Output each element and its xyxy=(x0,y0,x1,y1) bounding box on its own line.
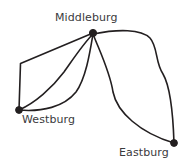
city-node-eastburg xyxy=(171,140,178,147)
road-westburg-middleburg-middle xyxy=(19,34,93,110)
road-westburg-middleburg-upper xyxy=(19,33,93,110)
road-westburg-middleburg-lower xyxy=(19,34,93,110)
city-label-westburg: Westburg xyxy=(22,114,75,126)
road-map-diagram: Middleburg Westburg Eastburg xyxy=(0,0,189,167)
city-node-middleburg xyxy=(89,29,96,36)
map-canvas xyxy=(0,0,189,167)
road-middleburg-eastburg-inner xyxy=(93,34,174,143)
road-middleburg-eastburg-outer xyxy=(93,31,174,143)
city-label-eastburg: Eastburg xyxy=(119,147,169,159)
city-label-middleburg: Middleburg xyxy=(55,12,118,24)
